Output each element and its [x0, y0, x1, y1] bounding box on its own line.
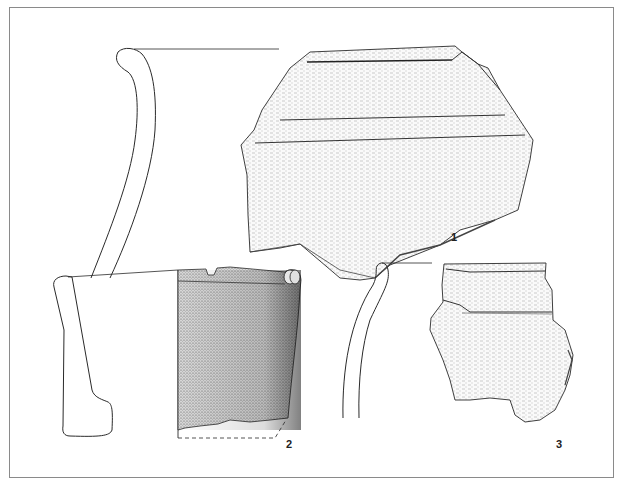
fragment-label-3: 3	[556, 438, 562, 450]
fragment-label-2: 2	[286, 438, 292, 450]
fragment-3-profile	[343, 263, 432, 418]
fragment-3-exterior	[430, 263, 573, 422]
pottery-drawings	[0, 0, 625, 486]
fragment-1-exterior	[241, 46, 533, 280]
fragment-2-profile	[54, 270, 178, 436]
fragment-label-1: 1	[451, 231, 457, 243]
fragment-2-exterior	[178, 267, 301, 438]
